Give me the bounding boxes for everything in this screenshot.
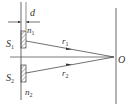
double-slit-diagram: d n1 S1 S2 n2 r1 r2 O (0, 0, 128, 109)
label-n2: n2 (25, 87, 33, 98)
label-r1: r1 (62, 36, 69, 47)
label-S2: S2 (6, 72, 14, 84)
label-n1: n1 (27, 25, 35, 36)
ray-r2 (26, 57, 114, 73)
slab-n1 (21, 31, 26, 48)
label-O: O (118, 54, 125, 65)
ray-r1-arrow-icon (66, 48, 72, 51)
label-d: d (30, 7, 36, 18)
label-r2: r2 (62, 68, 69, 79)
slab-n2 (21, 65, 26, 82)
label-S1: S1 (6, 38, 14, 50)
